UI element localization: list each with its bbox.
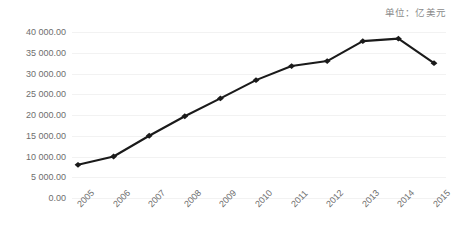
y-tick-label: 30 000.00 bbox=[26, 69, 66, 79]
y-axis: 0.005 000.0010 000.0015 000.0020 000.002… bbox=[0, 32, 66, 198]
line-chart: 单位：亿美元 0.005 000.0010 000.0015 000.0020 … bbox=[0, 0, 458, 247]
y-tick-label: 0.00 bbox=[48, 193, 66, 203]
y-tick-label: 5 000.00 bbox=[31, 172, 66, 182]
y-tick-label: 35 000.00 bbox=[26, 48, 66, 58]
y-tick-label: 40 000.00 bbox=[26, 27, 66, 37]
y-tick-label: 20 000.00 bbox=[26, 110, 66, 120]
y-tick-label: 25 000.00 bbox=[26, 89, 66, 99]
y-tick-label: 10 000.00 bbox=[26, 152, 66, 162]
x-axis: 2005200620072008200920102011201220132014… bbox=[72, 198, 446, 246]
plot-area bbox=[72, 32, 446, 198]
unit-caption: 单位：亿美元 bbox=[385, 5, 446, 19]
data-point-marker bbox=[75, 162, 82, 168]
y-tick-label: 15 000.00 bbox=[26, 131, 66, 141]
series-line bbox=[78, 39, 434, 165]
series-overlay bbox=[72, 32, 446, 198]
